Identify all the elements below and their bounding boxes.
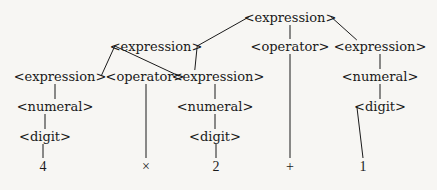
parse-tree-diagram: <expression><expression><operator><expre… <box>0 0 437 190</box>
terminal-symbol: + <box>286 159 294 174</box>
node-digit: <digit> <box>19 129 71 144</box>
node-numeral: <numeral> <box>342 69 419 84</box>
terminal-symbol: 2 <box>213 159 220 174</box>
tree-nodes: <expression><expression><operator><expre… <box>14 10 427 174</box>
node-expression: <expression> <box>14 69 107 84</box>
node-operator: <operator> <box>251 39 330 54</box>
terminal-symbol: 1 <box>360 159 367 174</box>
node-digit: <digit> <box>354 99 406 114</box>
node-expression: <expression> <box>172 69 265 84</box>
node-numeral: <numeral> <box>177 99 254 114</box>
node-expression: <expression> <box>334 39 427 54</box>
node-expression: <expression> <box>110 39 203 54</box>
terminal-symbol: × <box>142 159 150 174</box>
terminal-symbol: 4 <box>40 159 47 174</box>
node-expression: <expression> <box>244 10 337 25</box>
tree-edge <box>197 17 249 46</box>
node-digit: <digit> <box>189 129 241 144</box>
node-numeral: <numeral> <box>17 99 94 114</box>
